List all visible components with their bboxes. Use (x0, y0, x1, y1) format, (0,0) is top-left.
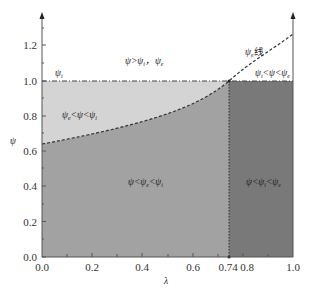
x-tick-label: 0.4 (135, 261, 149, 273)
psi-i-label: ψi (55, 68, 63, 79)
x-tick-label: 0.74 (218, 261, 238, 273)
x-tick-label: 0.0 (35, 261, 49, 273)
x-axis-label: λ (163, 276, 168, 286)
dark-region-label: ψ<ψi<ψe (246, 177, 281, 188)
x-tick-label: 0.8 (240, 261, 254, 273)
psi-e-line-label: ψe线 (245, 46, 264, 58)
y-tick-label: 1.0 (23, 75, 37, 87)
right-region-label: ψi<ψ<ψe (255, 68, 290, 79)
intersection-point (228, 80, 231, 83)
y-tick-label: 0.8 (23, 110, 37, 122)
region-dark (229, 81, 293, 257)
light-region-label: ψe<ψ<ψi (62, 110, 97, 121)
y-tick-label: 1.2 (23, 39, 37, 51)
phase-diagram-chart: 0.0 0.2 0.4 0.6 0.8 1.0 1.2 0.0 0.2 0.4 … (0, 0, 311, 293)
y-tick-label: 0.6 (23, 145, 37, 157)
y-tick-label: 0.2 (23, 216, 37, 228)
y-axis-arrow-icon (40, 12, 45, 19)
mid-region-label: ψ<ψe<ψi (128, 177, 163, 188)
y-axis-label: ψ (10, 136, 17, 146)
y-tick-label: 0.4 (23, 180, 37, 192)
x-tick-label: 0.6 (186, 261, 200, 273)
x-tick-label: 0.2 (85, 261, 99, 273)
x-tick-label: 1.0 (286, 261, 300, 273)
top-region-label: ψ>ψi，ψe (125, 56, 164, 67)
right-axis-arrow-icon (291, 12, 296, 19)
